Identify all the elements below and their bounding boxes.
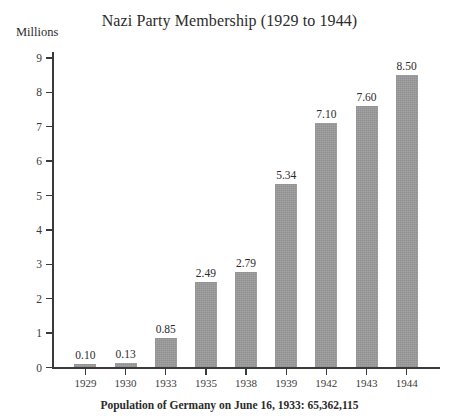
y-axis-tick-label: 0 — [16, 362, 42, 374]
x-axis-tick — [406, 369, 407, 375]
x-axis-tick-label: 1943 — [356, 377, 378, 389]
y-axis-tick-label: 3 — [16, 258, 42, 270]
footer-caption: Population of Germany on June 16, 1933: … — [0, 399, 459, 411]
bar-value-label: 0.13 — [116, 348, 136, 360]
y-axis-tick — [46, 92, 53, 93]
x-axis-tick-label: 1942 — [315, 377, 337, 389]
x-axis-tick — [165, 369, 166, 375]
x-axis-tick-label: 1938 — [235, 377, 257, 389]
y-axis-tick — [46, 229, 53, 230]
x-axis-tick-label: 1929 — [74, 377, 96, 389]
x-axis-tick — [85, 369, 86, 375]
y-axis-tick-label: 6 — [16, 155, 42, 167]
x-axis-tick — [366, 369, 367, 375]
bar-value-label: 5.34 — [276, 169, 296, 181]
x-axis-tick — [326, 369, 327, 375]
y-axis-tick — [46, 57, 53, 58]
y-axis-tick — [46, 298, 53, 299]
x-axis-tick — [245, 369, 246, 375]
y-axis-tick-label: 2 — [16, 293, 42, 305]
x-axis-tick — [205, 369, 206, 375]
chart-title: Nazi Party Membership (1929 to 1944) — [0, 12, 459, 30]
x-axis-tick — [125, 369, 126, 375]
bar-value-label: 0.10 — [75, 349, 95, 361]
x-axis-tick-label: 1930 — [115, 377, 137, 389]
bar — [315, 123, 337, 367]
bar-value-label: 2.49 — [196, 267, 216, 279]
x-axis-tick-label: 1935 — [195, 377, 217, 389]
y-axis-tick — [46, 264, 53, 265]
y-axis-tick — [46, 126, 53, 127]
bar-value-label: 2.79 — [236, 257, 256, 269]
y-axis-tick — [46, 160, 53, 161]
bar — [356, 106, 378, 367]
bar-value-label: 0.85 — [156, 323, 176, 335]
x-axis-tick-label: 1933 — [155, 377, 177, 389]
y-axis-line — [52, 52, 54, 369]
bar — [275, 184, 297, 368]
y-axis-tick-label: 4 — [16, 224, 42, 236]
chart-container: Nazi Party Membership (1929 to 1944) Mil… — [0, 0, 459, 419]
y-axis-tick-label: 1 — [16, 327, 42, 339]
y-axis-tick-label: 5 — [16, 190, 42, 202]
bar — [195, 282, 217, 368]
bar-value-label: 7.10 — [316, 108, 336, 120]
x-axis-tick — [286, 369, 287, 375]
y-axis-tick — [46, 332, 53, 333]
bar-value-label: 8.50 — [397, 60, 417, 72]
bar — [74, 364, 96, 367]
y-axis-tick — [46, 367, 53, 368]
x-axis-tick-label: 1939 — [275, 377, 297, 389]
x-axis-tick-label: 1944 — [396, 377, 418, 389]
y-axis-unit-label: Millions — [16, 25, 58, 40]
bar — [396, 75, 418, 367]
y-axis-tick-label: 9 — [16, 52, 42, 64]
bar — [235, 272, 257, 368]
bar-value-label: 7.60 — [356, 91, 376, 103]
y-axis-tick-label: 8 — [16, 86, 42, 98]
bar — [155, 338, 177, 367]
y-axis-tick — [46, 195, 53, 196]
y-axis-tick-label: 7 — [16, 121, 42, 133]
bar — [115, 363, 137, 367]
